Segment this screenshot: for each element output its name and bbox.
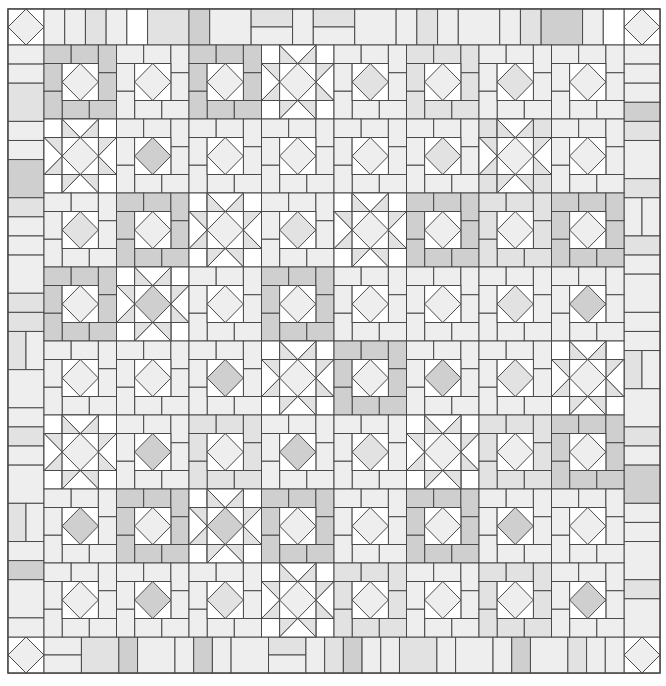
frame-patch: [62, 249, 89, 268]
frame-patch: [407, 387, 425, 415]
frame-patch: [434, 563, 461, 582]
frame-patch: [171, 73, 189, 101]
border-patch: [603, 9, 624, 45]
border-patch: [624, 236, 660, 255]
frame-patch: [407, 563, 434, 582]
square-in-square-block-r5c3: [262, 415, 335, 489]
frame-patch: [44, 286, 62, 314]
frame-patch: [216, 563, 243, 582]
border-patch: [605, 637, 624, 673]
frame-patch: [117, 341, 144, 360]
star-block-r4c7: [552, 341, 625, 415]
frame-patch: [606, 267, 624, 295]
star-corner: [461, 415, 479, 434]
frame-patch: [606, 443, 624, 471]
border-patch: [583, 9, 604, 45]
frame-patch: [407, 212, 425, 240]
border-patch: [293, 9, 314, 45]
frame-patch: [452, 545, 479, 564]
frame-patch: [234, 471, 261, 490]
frame-patch: [162, 471, 189, 490]
frame-patch: [71, 563, 98, 582]
frame-patch: [434, 489, 461, 508]
frame-patch: [71, 341, 98, 360]
frame-patch: [117, 461, 135, 489]
frame-patch: [407, 341, 434, 360]
border-patch: [456, 637, 493, 673]
frame-patch: [135, 175, 162, 194]
frame-patch: [171, 517, 189, 545]
frame-patch: [189, 434, 207, 462]
frame-patch: [44, 563, 71, 582]
frame-patch: [98, 45, 116, 73]
border-patch: [212, 637, 231, 673]
quilt-pattern: [0, 0, 666, 686]
star-corner: [262, 341, 280, 360]
frame-patch: [280, 545, 307, 564]
frame-patch: [533, 591, 551, 619]
frame-patch: [388, 267, 406, 295]
frame-patch: [552, 489, 579, 508]
border-patch: [624, 389, 660, 427]
frame-patch: [44, 267, 71, 286]
border-patch: [587, 637, 606, 673]
border-patch: [26, 331, 44, 369]
frame-patch: [171, 221, 189, 249]
star-corner: [44, 415, 62, 434]
frame-patch: [262, 193, 289, 212]
star-corner: [533, 119, 551, 138]
frame-patch: [117, 138, 135, 166]
frame-patch: [597, 101, 624, 120]
star-corner: [316, 341, 334, 360]
border-patch: [8, 618, 44, 637]
frame-patch: [189, 582, 207, 610]
frame-patch: [334, 508, 352, 536]
frame-patch: [189, 45, 216, 64]
frame-patch: [316, 443, 334, 471]
frame-patch: [262, 165, 280, 193]
border-right: [624, 45, 660, 637]
frame-patch: [379, 471, 406, 490]
frame-patch: [361, 45, 388, 64]
frame-patch: [497, 249, 524, 268]
frame-patch: [479, 508, 497, 536]
star-corner: [316, 397, 334, 416]
frame-patch: [388, 517, 406, 545]
frame-patch: [407, 286, 425, 314]
frame-patch: [262, 212, 280, 240]
frame-patch: [570, 545, 597, 564]
frame-patch: [606, 517, 624, 545]
frame-patch: [361, 415, 388, 434]
border-patch: [8, 542, 44, 561]
frame-patch: [597, 175, 624, 194]
frame-patch: [334, 609, 352, 637]
frame-patch: [162, 249, 189, 268]
star-corner: [334, 249, 352, 268]
frame-patch: [316, 193, 334, 221]
square-in-square-block-r6c4: [334, 489, 407, 563]
frame-patch: [98, 341, 116, 369]
square-in-square-block-r2c1: [117, 193, 190, 267]
frame-patch: [307, 323, 334, 342]
star-corner: [189, 193, 207, 212]
frame-patch: [452, 101, 479, 120]
square-in-square-block-r3c3: [262, 267, 335, 341]
frame-patch: [135, 397, 162, 416]
frame-patch: [452, 323, 479, 342]
square-in-square-block-r0c4: [334, 45, 407, 119]
frame-patch: [434, 193, 461, 212]
frame-patch: [189, 64, 207, 92]
frame-patch: [234, 101, 261, 120]
frame-patch: [524, 619, 551, 638]
frame-patch: [407, 91, 425, 119]
frame-patch: [117, 582, 135, 610]
border-patch: [8, 83, 44, 121]
border-patch: [231, 637, 268, 673]
border-patch: [624, 140, 660, 178]
frame-patch: [497, 397, 524, 416]
frame-patch: [117, 535, 135, 563]
frame-patch: [216, 267, 243, 286]
frame-patch: [570, 619, 597, 638]
border-patch: [8, 427, 44, 446]
frame-patch: [379, 175, 406, 194]
